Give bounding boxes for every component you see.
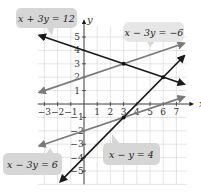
callout-eq2: x − 3y = −6 — [124, 22, 184, 42]
svg-text:x: x — [199, 98, 201, 109]
svg-text:7: 7 — [174, 107, 180, 117]
svg-text:2: 2 — [108, 107, 114, 117]
svg-text:3: 3 — [74, 59, 80, 69]
label-eq4: x − y = 4 — [109, 149, 154, 160]
label-eq1: x + 3y = 12 — [18, 13, 75, 24]
svg-text:y: y — [86, 14, 93, 25]
svg-text:−1: −1 — [70, 112, 83, 122]
svg-text:5: 5 — [74, 32, 80, 42]
svg-text:−3: −3 — [70, 139, 84, 149]
svg-text:6: 6 — [160, 107, 166, 117]
callout-eq4: x − y = 4 — [103, 143, 160, 165]
callout-eq3: x − 3y = 6 — [3, 153, 62, 175]
svg-text:1: 1 — [74, 86, 80, 96]
svg-text:−4: −4 — [70, 153, 84, 163]
label-eq3: x − 3y = 6 — [7, 159, 58, 170]
svg-text:−5: −5 — [70, 166, 84, 176]
svg-text:−2: −2 — [51, 107, 64, 117]
svg-text:−3: −3 — [38, 107, 52, 117]
svg-text:1: 1 — [94, 107, 100, 117]
label-eq2: x − 3y = −6 — [125, 27, 184, 38]
callout-eq1: x + 3y = 12 — [16, 8, 77, 28]
